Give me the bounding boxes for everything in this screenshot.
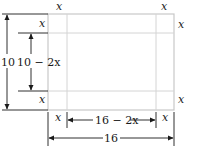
label-inner-width: 16 − 2x — [95, 114, 139, 127]
label-corner-top-right-side: x — [178, 18, 185, 31]
label-corner-top-left-top: x — [56, 0, 63, 13]
label-corner-bottom-right-side: x — [178, 93, 185, 106]
label-inner-height: 10 − 2x — [17, 56, 61, 69]
label-outer-height: 10 — [1, 56, 15, 69]
label-corner-top-right-top: x — [161, 0, 168, 13]
label-corner-top-left-side: x — [39, 17, 46, 30]
box-cutout-diagram: x x x x x x x x 10 10 − 2x 16 − 2x 16 — [0, 0, 204, 153]
label-corner-bottom-left-bottom: x — [55, 111, 62, 124]
label-corner-bottom-right-bottom: x — [162, 111, 169, 124]
label-outer-width: 16 — [104, 132, 118, 145]
label-corner-bottom-left-side: x — [39, 93, 46, 106]
